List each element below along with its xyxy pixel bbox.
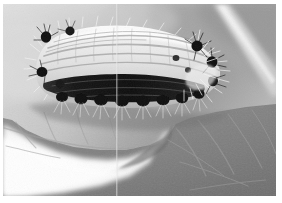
photo-content — [0, 0, 282, 196]
film-grain — [3, 4, 276, 196]
caterpillar-photograph — [0, 0, 282, 203]
photograph-frame: Black and white macro photograph of a pa… — [0, 0, 282, 203]
